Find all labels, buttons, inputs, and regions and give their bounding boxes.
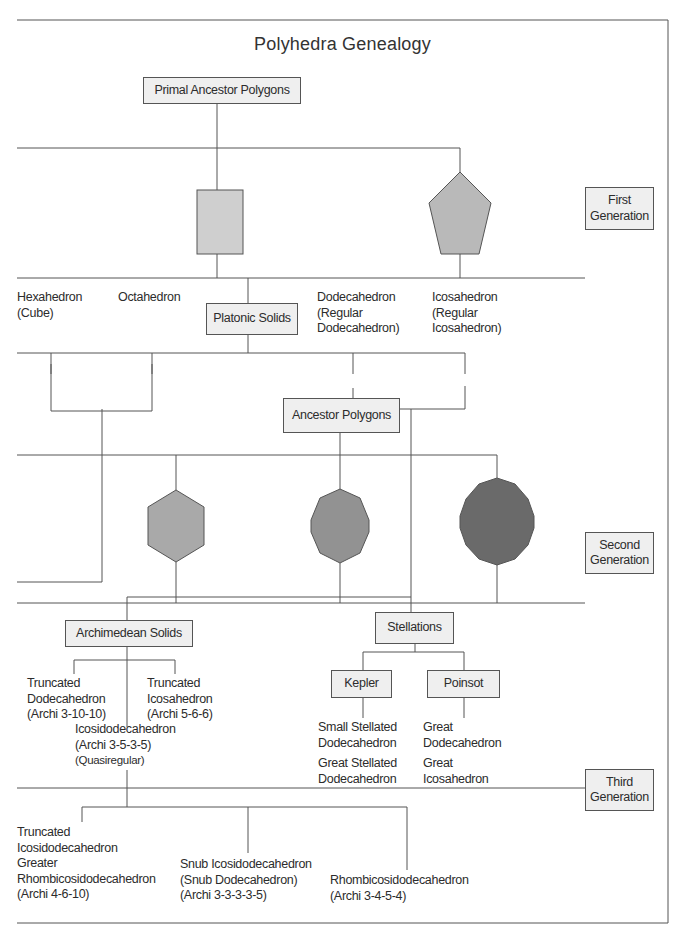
label-line: Great [423,720,501,736]
third-gen-snub-icosidodecahedron: Snub Icosidodecahedron (Snub Dodecahedro… [180,857,312,904]
square-shape [197,190,243,254]
third-gen-rhombicosidodecahedron: Rhombicosidodecahedron (Archi 3-4-5-4) [330,873,469,904]
kepler-small-stellated-dodecahedron: Small Stellated Dodecahedron [318,720,397,751]
label-line: Truncated [17,825,156,841]
label-line: (Regular [432,306,501,322]
gen-label-line: First [608,193,631,209]
poinsot-great-icosahedron: Great Icosahedron [423,756,489,787]
platonic-icosahedron: Icosahedron (Regular Icosahedron) [432,290,501,337]
label-line: (Snub Dodecahedron) [180,873,312,889]
label-line: Icosahedron [147,692,213,708]
label-line: Dodecahedron [317,290,399,306]
label-line: (Quasiregular) [75,753,176,769]
label-line: Truncated [27,676,106,692]
label-line: Dodecahedron [318,772,397,788]
label-line: (Cube) [17,306,82,322]
label-line: (Archi 3-10-10) [27,707,106,723]
node-label: Archimedean Solids [76,626,182,642]
node-stellations: Stellations [375,612,454,644]
label-line: Icosidodecahedron [75,722,176,738]
label-line: Rhombicosidodecahedron [17,872,156,888]
node-platonic-solids: Platonic Solids [206,303,298,335]
platonic-octahedron: Octahedron [118,290,180,306]
gen-label-line: Third [606,775,633,791]
label-line: Icosahedron) [432,321,501,337]
label-line: Icosahedron [423,772,489,788]
label-line: (Archi 3-5-3-5) [75,738,176,754]
label-line: (Archi 4-6-10) [17,887,156,903]
node-label: Platonic Solids [213,311,291,327]
platonic-dodecahedron: Dodecahedron (Regular Dodecahedron) [317,290,399,337]
node-ancestor-polygons: Ancestor Polygons [283,398,400,433]
archimedean-truncated-icosahedron: Truncated Icosahedron (Archi 5-6-6) [147,676,213,723]
label-line: Great Stellated [318,756,397,772]
label-line: Snub Icosidodecahedron [180,857,312,873]
poinsot-great-dodecahedron: Great Dodecahedron [423,720,501,751]
label-line: Dodecahedron) [317,321,399,337]
kepler-great-stellated-dodecahedron: Great Stellated Dodecahedron [318,756,397,787]
node-primal-ancestor-polygons: Primal Ancestor Polygons [143,77,301,104]
diagram-title: Polyhedra Genealogy [0,34,685,55]
label-line: Dodecahedron [423,736,501,752]
label-line: Great [423,756,489,772]
label-line: (Archi 3-3-3-3-5) [180,888,312,904]
archimedean-truncated-dodecahedron: Truncated Dodecahedron (Archi 3-10-10) [27,676,106,723]
first-generation-label: First Generation [585,187,654,230]
gen-label-line: Generation [590,553,649,569]
second-generation-label: Second Generation [585,532,654,574]
hexagon-shape [148,490,204,562]
node-label: Poinsot [444,676,484,692]
node-label: Ancestor Polygons [292,408,391,424]
label-line: Small Stellated [318,720,397,736]
node-label: Primal Ancestor Polygons [154,83,289,99]
gen-label-line: Generation [590,209,649,225]
label-line: Hexahedron [17,290,82,306]
label-line: Icosahedron [432,290,501,306]
third-gen-truncated-icosidodecahedron: Truncated Icosidodecahedron Greater Rhom… [17,825,156,903]
label-line: (Regular [317,306,399,322]
dodecagon-shape [460,478,534,565]
label-line: Dodecahedron [27,692,106,708]
node-poinsot: Poinsot [427,670,500,698]
genealogy-connectors [0,0,685,938]
label-line: Octahedron [118,290,180,306]
label-line: Greater [17,856,156,872]
gen-label-line: Generation [590,790,649,806]
node-kepler: Kepler [331,670,392,698]
octagon-shape [311,489,369,563]
platonic-hexahedron: Hexahedron (Cube) [17,290,82,321]
gen-label-line: Second [599,538,640,554]
node-label: Stellations [387,620,441,636]
node-archimedean-solids: Archimedean Solids [65,620,193,647]
label-line: Rhombicosidodecahedron [330,873,469,889]
label-line: (Archi 3-4-5-4) [330,889,469,905]
label-line: Truncated [147,676,213,692]
archimedean-icosidodecahedron: Icosidodecahedron (Archi 3-5-3-5) (Quasi… [75,722,176,769]
pentagon-shape [429,172,491,254]
label-line: Dodecahedron [318,736,397,752]
label-line: Icosidodecahedron [17,841,156,857]
label-line: (Archi 5-6-6) [147,707,213,723]
third-generation-label: Third Generation [585,769,654,811]
node-label: Kepler [344,676,378,692]
